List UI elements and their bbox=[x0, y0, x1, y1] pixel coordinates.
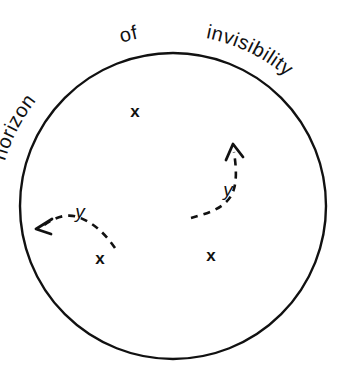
arc-word-invisibility-text: invisibility bbox=[205, 20, 298, 79]
diagram-canvas: horizon of invisibility x x x y y bbox=[0, 0, 346, 379]
dashed-arrow-right-group: y bbox=[191, 144, 243, 218]
arc-word-of: of bbox=[117, 21, 140, 47]
x-mark-lower-right: x bbox=[206, 246, 216, 265]
dashed-arrow-left-label: y bbox=[73, 201, 86, 222]
x-mark-upper: x bbox=[130, 102, 140, 121]
arc-word-of-text: of bbox=[117, 21, 140, 47]
dashed-arrow-right-label: y bbox=[221, 179, 234, 200]
dashed-arrow-left-group: y bbox=[36, 201, 115, 248]
horizon-of-invisibility-figure: horizon of invisibility x x x y y bbox=[0, 0, 346, 379]
x-marks-group: x x x bbox=[95, 102, 216, 268]
arc-word-horizon: horizon bbox=[0, 89, 40, 162]
x-mark-lower-left: x bbox=[95, 249, 105, 268]
arc-word-invisibility: invisibility bbox=[205, 20, 298, 79]
arc-word-horizon-text: horizon bbox=[0, 89, 40, 162]
dashed-arrow-left-head-icon bbox=[36, 219, 52, 234]
arc-label-group: horizon of invisibility bbox=[0, 20, 298, 162]
horizon-circle bbox=[20, 53, 326, 359]
